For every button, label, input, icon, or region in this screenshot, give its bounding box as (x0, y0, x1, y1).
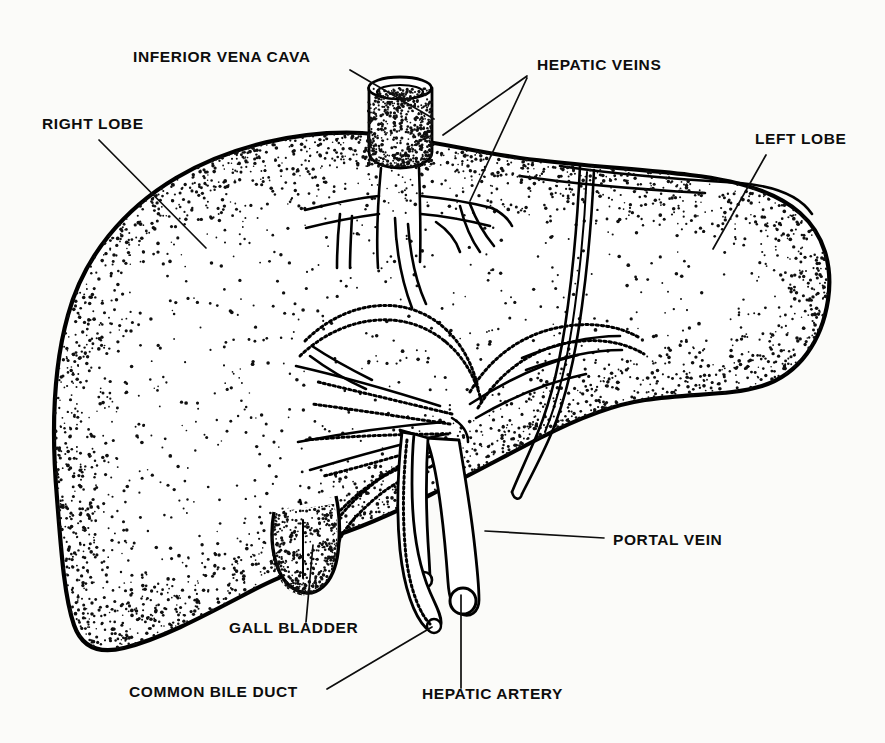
label-text-common-bile-duct: COMMON BILE DUCT (129, 683, 298, 700)
label-text-hepatic-artery: HEPATIC ARTERY (422, 685, 563, 702)
label-text-hepatic-veins: HEPATIC VEINS (537, 56, 661, 73)
liver-anatomy-illustration: INFERIOR VENA CAVAHEPATIC VEINSRIGHT LOB… (0, 0, 885, 743)
label-text-left-lobe: LEFT LOBE (755, 130, 847, 147)
inferior-vena-cava-tube (366, 77, 435, 169)
label-text-gall-bladder: GALL BLADDER (229, 619, 358, 636)
label-text-inferior-vena-cava: INFERIOR VENA CAVA (133, 48, 311, 65)
label-text-portal-vein: PORTAL VEIN (613, 531, 722, 548)
label-text-right-lobe: RIGHT LOBE (42, 115, 144, 132)
liver-diagram-canvas: INFERIOR VENA CAVAHEPATIC VEINSRIGHT LOB… (0, 0, 885, 743)
portal-vein-lumen (454, 592, 472, 610)
